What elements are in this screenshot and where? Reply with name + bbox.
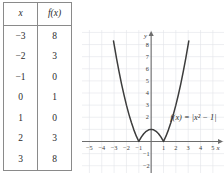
y-tick-label: 6 [146, 65, 149, 72]
cell-x: −3 [4, 26, 38, 47]
function-graph: −5−4−3−2−112345 8765432−1−2 x y f(x) = |… [82, 30, 224, 173]
table-header-row: x f(x) [4, 3, 72, 26]
table-row: −2 3 [4, 47, 72, 68]
x-tick-label: −3 [111, 144, 118, 151]
cell-fx: 0 [38, 67, 72, 88]
cell-x: 2 [4, 129, 38, 150]
cell-fx: 3 [38, 129, 72, 150]
graph-svg: −5−4−3−2−112345 8765432−1−2 x y f(x) = |… [82, 30, 224, 173]
table-row: 3 8 [4, 149, 72, 170]
y-tick-label: 5 [146, 77, 149, 84]
x-tick-label: 3 [187, 144, 190, 151]
x-tick-label: 1 [162, 144, 165, 151]
x-tick-label: −4 [98, 144, 106, 151]
cell-fx: 8 [38, 26, 72, 47]
cell-x: 1 [4, 108, 38, 129]
cell-fx: 1 [38, 88, 72, 109]
cell-x: 0 [4, 88, 38, 109]
cell-fx: 8 [38, 149, 72, 170]
x-tick-label: 2 [174, 144, 177, 151]
table-header: x f(x) [4, 3, 72, 26]
figure-root: x f(x) −3 8 −2 3 −1 0 0 1 1 0 [0, 0, 224, 173]
cell-fx: 0 [38, 108, 72, 129]
grid-lines [82, 30, 224, 173]
table-row: −3 8 [4, 26, 72, 47]
equation-annotation: f(x) = |x² − 1| [170, 113, 216, 122]
table-row: 2 3 [4, 129, 72, 150]
x-tick-label: −5 [86, 144, 93, 151]
x-tick-label: 5 [211, 144, 214, 151]
table-row: 0 1 [4, 88, 72, 109]
y-tick-label: −1 [143, 150, 150, 157]
cell-fx: 3 [38, 47, 72, 68]
x-tick-label: 4 [199, 144, 203, 151]
table-row: −1 0 [4, 67, 72, 88]
function-value-table: x f(x) −3 8 −2 3 −1 0 0 1 1 0 [3, 2, 72, 171]
y-tick-label: 8 [146, 41, 149, 48]
y-tick-label: 2 [146, 113, 149, 120]
axes [82, 31, 223, 173]
cell-x: 3 [4, 149, 38, 170]
table-body: −3 8 −2 3 −1 0 0 1 1 0 2 3 [4, 26, 72, 171]
header-cell-x: x [4, 3, 38, 26]
cell-x: −2 [4, 47, 38, 68]
x-axis-label: x [215, 144, 220, 152]
cell-x: −1 [4, 67, 38, 88]
x-axis-tick-labels: −5−4−3−2−112345 [86, 144, 214, 151]
y-tick-label: −2 [143, 162, 150, 169]
y-tick-label: 3 [146, 101, 149, 108]
y-tick-label: 7 [146, 53, 149, 60]
table-row: 1 0 [4, 108, 72, 129]
header-cell-fx: f(x) [38, 3, 72, 26]
x-tick-label: −2 [123, 144, 130, 151]
x-tick-label: −1 [135, 144, 142, 151]
